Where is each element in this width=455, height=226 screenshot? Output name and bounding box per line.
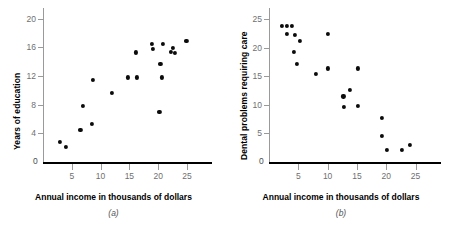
scatter-point xyxy=(78,128,82,132)
scatter-point xyxy=(326,32,330,36)
scatter-point xyxy=(342,105,346,109)
x-tick-label: 10 xyxy=(96,171,105,181)
scatter-point xyxy=(400,148,404,152)
x-tick-label: 20 xyxy=(153,171,162,181)
panel-caption-b: (b) xyxy=(227,208,455,218)
scatter-point xyxy=(298,39,302,43)
figure-row: Years of education 510152025481216200 An… xyxy=(0,0,455,226)
y-axis-line xyxy=(269,8,270,162)
y-tick-label: 16 xyxy=(15,42,36,52)
scatter-point xyxy=(356,104,360,108)
scatter-point xyxy=(285,24,289,28)
x-tick-label: 15 xyxy=(125,171,134,181)
x-tick xyxy=(416,164,417,170)
scatter-point xyxy=(379,134,383,138)
scatter-point xyxy=(348,88,352,92)
origin-label: 0 xyxy=(259,156,264,166)
scatter-point xyxy=(58,140,62,144)
scatter-point xyxy=(408,143,412,147)
y-tick-label: 20 xyxy=(241,43,262,53)
scatter-point xyxy=(126,75,130,79)
y-tick xyxy=(264,133,270,134)
y-tick xyxy=(264,19,270,20)
scatter-point xyxy=(90,122,94,126)
x-tick-label: 10 xyxy=(323,171,332,181)
x-tick xyxy=(101,164,102,170)
y-tick xyxy=(38,105,44,106)
plot-area-b: 5101520255101520250 xyxy=(269,8,439,162)
scatter-point xyxy=(173,51,177,55)
y-tick-label: 20 xyxy=(15,14,36,24)
origin-label: 0 xyxy=(33,156,38,166)
scatter-point xyxy=(184,39,188,43)
scatter-point xyxy=(294,62,298,66)
y-tick xyxy=(38,133,44,134)
x-tick xyxy=(129,164,130,170)
scatter-point xyxy=(157,110,161,114)
x-tick-label: 25 xyxy=(182,171,191,181)
scatter-point xyxy=(380,115,384,119)
scatter-point xyxy=(284,32,288,36)
x-tick-label: 25 xyxy=(411,171,420,181)
scatter-point xyxy=(355,66,359,70)
y-tick xyxy=(38,47,44,48)
scatter-point xyxy=(81,104,85,108)
chart-panel-b: Dental problems requiring care 510152025… xyxy=(227,0,455,226)
scatter-point xyxy=(90,78,94,82)
x-tick-label: 5 xyxy=(296,171,301,181)
y-tick xyxy=(264,48,270,49)
scatter-point xyxy=(134,50,138,54)
x-tick xyxy=(357,164,358,170)
scatter-point xyxy=(109,91,113,95)
scatter-point xyxy=(161,42,165,46)
y-tick xyxy=(38,19,44,20)
plot-area-a: 510152025481216200 xyxy=(43,8,210,162)
x-tick xyxy=(158,164,159,170)
scatter-point xyxy=(160,75,164,79)
scatter-point xyxy=(64,145,68,149)
scatter-point xyxy=(158,62,162,66)
y-tick-label: 25 xyxy=(241,14,262,24)
x-tick-label: 20 xyxy=(382,171,391,181)
scatter-point xyxy=(280,24,284,28)
y-tick xyxy=(38,76,44,77)
scatter-point xyxy=(293,33,297,37)
scatter-point xyxy=(171,46,175,50)
y-axis-title-a: Years of education xyxy=(12,73,22,150)
panel-caption-a: (a) xyxy=(0,208,227,218)
scatter-point xyxy=(135,75,139,79)
scatter-point xyxy=(385,148,389,152)
x-axis-title-b: Annual income in thousands of dollars xyxy=(227,192,455,202)
scatter-point xyxy=(314,72,318,76)
y-tick xyxy=(264,105,270,106)
scatter-point xyxy=(292,50,296,54)
scatter-point xyxy=(151,47,155,51)
x-tick xyxy=(187,164,188,170)
x-axis-title-a: Annual income in thousands of dollars xyxy=(0,192,227,202)
x-tick-label: 15 xyxy=(352,171,361,181)
x-tick-label: 5 xyxy=(69,171,74,181)
y-tick-label: 10 xyxy=(241,100,262,110)
y-tick xyxy=(264,76,270,77)
y-tick-label: 12 xyxy=(15,71,36,81)
y-tick-label: 4 xyxy=(15,128,36,138)
scatter-point xyxy=(290,24,294,28)
y-axis-line xyxy=(43,8,44,162)
x-tick xyxy=(72,164,73,170)
y-tick-label: 8 xyxy=(15,100,36,110)
scatter-point xyxy=(341,94,345,98)
y-tick-label: 15 xyxy=(241,71,262,81)
scatter-point xyxy=(326,66,330,70)
scatter-point xyxy=(150,42,154,46)
x-tick xyxy=(386,164,387,170)
chart-panel-a: Years of education 510152025481216200 An… xyxy=(0,0,227,226)
x-tick xyxy=(298,164,299,170)
x-tick xyxy=(328,164,329,170)
y-tick-label: 5 xyxy=(241,128,262,138)
